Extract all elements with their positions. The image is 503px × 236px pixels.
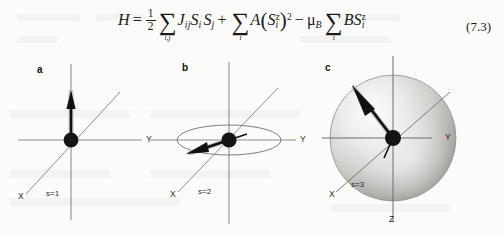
- paren-close: ): [280, 8, 287, 32]
- spin-superscript-z: z: [362, 11, 366, 22]
- axis-label-x: X: [329, 189, 335, 199]
- axis-label-y: Y: [300, 134, 306, 144]
- equation-equals: =: [133, 11, 142, 28]
- equation-term-H: H: [118, 11, 130, 28]
- mu-subscript-B: B: [316, 19, 322, 30]
- summation-ij: ∑i,j: [159, 12, 177, 32]
- panel-a-diagram: [8, 52, 160, 236]
- hamiltonian-equation: H=12∑i,jJijSiSj+∑iA(Siz)2−μB∑iBSiz: [118, 8, 366, 33]
- summation-index-i: i: [239, 33, 241, 42]
- equation-minus: −: [295, 11, 304, 28]
- equation-term-Sj: S: [203, 11, 211, 28]
- equation-term-mu: μ: [307, 11, 316, 28]
- spin-label-b: s=2: [198, 187, 211, 196]
- spin-arrow-head: [66, 90, 75, 109]
- equation-term-B: B: [344, 11, 354, 28]
- spin-site-dot: [221, 132, 236, 147]
- equation-term-Si: S: [191, 11, 199, 28]
- sigma-glyph: ∑: [159, 12, 177, 32]
- summation-index-i: i: [333, 33, 335, 42]
- axis-label-x: X: [170, 189, 176, 199]
- equation-number: (7.3): [466, 19, 491, 35]
- equation-term-J: J: [178, 11, 185, 28]
- fraction-numerator: 1: [146, 8, 156, 20]
- axis-label-z: Z: [389, 214, 394, 224]
- spin-label-a: s=1: [46, 189, 59, 198]
- axis-label-x: X: [18, 191, 24, 201]
- panel-c-diagram: [322, 52, 503, 236]
- fraction-denominator: 2: [146, 20, 156, 33]
- equation-plus: +: [217, 11, 226, 28]
- panel-b-diagram: [150, 52, 328, 236]
- summation-i-anisotropy: ∑i: [232, 12, 250, 32]
- spin-site-dot: [64, 133, 79, 148]
- spin-arrow-head: [186, 142, 209, 154]
- axis-label-y: Y: [445, 132, 451, 142]
- one-half-fraction: 12: [146, 8, 156, 32]
- panel-letter-b: b: [182, 62, 188, 73]
- spin-site-dot: [385, 130, 401, 146]
- equation-row: H=12∑i,jJijSiSj+∑iA(Siz)2−μB∑iBSiz (7.3): [0, 0, 503, 52]
- panel-a: a Y X s=1: [8, 52, 160, 236]
- summation-i-zeeman: ∑i: [325, 12, 343, 32]
- panel-letter-a: a: [37, 64, 43, 75]
- panel-letter-c: c: [325, 62, 331, 73]
- sigma-glyph: ∑: [232, 12, 250, 32]
- figure-panels: a Y X s=1 b Y X s=2: [0, 52, 503, 236]
- sigma-glyph: ∑: [325, 12, 343, 32]
- panel-b: b Y X s=2: [150, 52, 328, 236]
- summation-index-ij: i,j: [164, 33, 170, 42]
- equation-term-Siz-zeeman: S: [354, 11, 362, 28]
- spin-subscript-i: i: [199, 19, 202, 30]
- spin-label-c: s=3: [351, 180, 364, 189]
- equation-term-A: A: [251, 11, 261, 28]
- square-exponent: 2: [287, 11, 292, 22]
- spin-subscript-j: j: [212, 19, 215, 30]
- panel-c: c Y X Z s=3: [322, 52, 503, 236]
